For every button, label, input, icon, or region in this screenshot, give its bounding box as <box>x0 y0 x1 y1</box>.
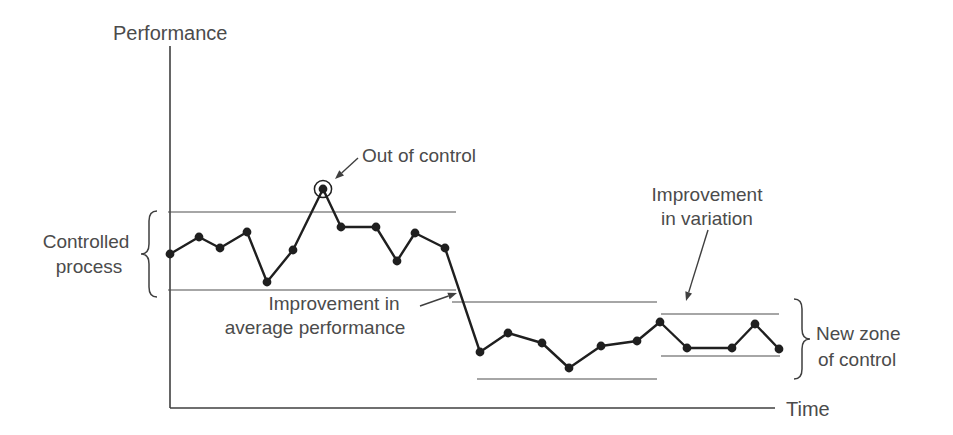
data-point <box>504 329 513 338</box>
controlled-process-brace <box>141 211 157 297</box>
variation-improvement-label-line2: in variation <box>661 208 753 229</box>
variation-improvement-label-line1: Improvement <box>652 184 764 205</box>
average-improvement-arrow <box>420 293 457 306</box>
data-point <box>195 233 204 242</box>
control-chart: PerformanceTimeOut of controlControlledp… <box>0 0 953 435</box>
controlled-process-label-line2: process <box>56 256 123 277</box>
controlled-process-label-line1: Controlled <box>43 231 130 252</box>
y-axis-label: Performance <box>113 22 228 44</box>
data-point <box>728 344 737 353</box>
data-point <box>441 244 450 253</box>
control-chart-figure: PerformanceTimeOut of controlControlledp… <box>0 0 953 435</box>
average-improvement-label-line2: average performance <box>225 317 406 338</box>
data-point <box>656 318 665 327</box>
data-point <box>243 228 252 237</box>
data-point <box>775 345 784 354</box>
out-of-control-label: Out of control <box>362 145 476 166</box>
data-point <box>476 348 485 357</box>
average-improvement-label-line1: Improvement in <box>269 293 400 314</box>
average-improvement-arrow-shaft <box>420 296 449 306</box>
data-point <box>538 339 547 348</box>
data-point <box>751 320 760 329</box>
x-axis-label: Time <box>786 398 830 420</box>
data-point <box>597 342 606 351</box>
data-point <box>633 337 642 346</box>
new-zone-label-line1: New zone <box>816 323 901 344</box>
data-point <box>289 246 298 255</box>
variation-improvement-arrow <box>685 230 708 301</box>
new-zone-brace <box>794 299 810 379</box>
data-point <box>683 344 692 353</box>
data-point <box>372 223 381 232</box>
data-point <box>166 250 175 259</box>
variation-improvement-arrow-head <box>685 291 692 301</box>
data-point <box>263 278 272 287</box>
average-improvement-arrow-head <box>447 293 457 300</box>
data-point <box>216 244 225 253</box>
new-zone-label-line2: of control <box>818 349 896 370</box>
annotation-arrows <box>335 158 708 306</box>
data-point <box>411 229 420 238</box>
out-of-control-arrow-shaft <box>342 158 358 173</box>
data-point <box>337 223 346 232</box>
data-point <box>393 257 402 266</box>
data-point <box>565 364 574 373</box>
text-labels: PerformanceTimeOut of controlControlledp… <box>43 22 901 420</box>
out-of-control-arrow <box>335 158 358 179</box>
variation-improvement-arrow-shaft <box>689 230 708 292</box>
data-point <box>319 185 328 194</box>
